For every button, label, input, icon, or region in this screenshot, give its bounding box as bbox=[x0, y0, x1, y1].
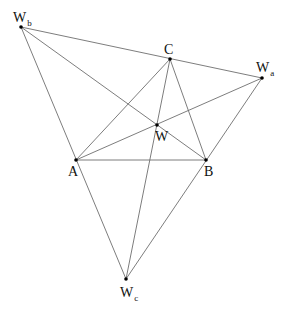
label-wa: Wa bbox=[256, 60, 274, 78]
label-b: B bbox=[204, 164, 213, 179]
segments-layer bbox=[21, 27, 262, 279]
geometry-diagram: ABCWWaWbWc bbox=[0, 0, 285, 311]
label-wc: Wc bbox=[120, 285, 138, 303]
point-a bbox=[74, 158, 78, 162]
point-w bbox=[155, 123, 159, 127]
point-wa bbox=[260, 76, 264, 80]
point-wc bbox=[124, 277, 128, 281]
label-a: A bbox=[68, 164, 79, 179]
label-w: W bbox=[155, 129, 169, 144]
label-wb: Wb bbox=[13, 10, 32, 28]
label-c: C bbox=[164, 42, 173, 57]
label-subscript: c bbox=[134, 293, 138, 303]
segment-c-a bbox=[76, 59, 170, 160]
point-b bbox=[204, 158, 208, 162]
point-wb bbox=[19, 25, 23, 29]
label-subscript: a bbox=[270, 68, 274, 78]
label-subscript: b bbox=[27, 18, 32, 28]
labels-layer: ABCWWaWbWc bbox=[13, 10, 274, 303]
segment-b-c bbox=[170, 59, 206, 160]
point-c bbox=[168, 57, 172, 61]
points-layer bbox=[19, 25, 264, 281]
